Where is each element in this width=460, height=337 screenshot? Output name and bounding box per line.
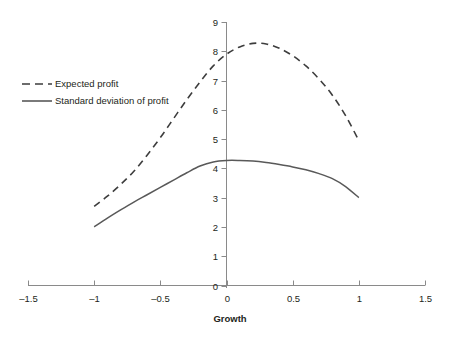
- y-axis-tick-labels: 0123456789: [213, 17, 218, 292]
- x-tick-label: 0.5: [287, 293, 300, 304]
- chart-container: –1.5–1–0.500.511.5 0123456789 Expected p…: [0, 0, 460, 337]
- y-tick-label: 8: [213, 46, 218, 57]
- x-tick-label: –1.5: [19, 293, 38, 304]
- legend-label-standard-deviation-of-profit: Standard deviation of profit: [55, 95, 169, 106]
- y-tick-label: 6: [213, 105, 218, 116]
- legend-item-standard-deviation-of-profit: Standard deviation of profit: [22, 93, 212, 108]
- chart-legend: Expected profit Standard deviation of pr…: [22, 76, 212, 110]
- chart-plot-area: –1.5–1–0.500.511.5 0123456789: [0, 0, 460, 337]
- legend-swatch-dashed-icon: [22, 79, 52, 89]
- x-axis-tick-labels: –1.5–1–0.500.511.5: [19, 293, 432, 304]
- y-tick-label: 2: [213, 222, 218, 233]
- y-tick-label: 5: [213, 134, 218, 145]
- y-tick-label: 0: [213, 281, 218, 292]
- legend-label-expected-profit: Expected profit: [55, 78, 118, 89]
- x-tick-label: 0: [225, 293, 230, 304]
- y-tick-label: 4: [213, 163, 218, 174]
- x-tick-label: 1.5: [419, 293, 432, 304]
- y-axis-ticks: [222, 23, 227, 287]
- legend-swatch-solid-icon: [22, 96, 52, 106]
- y-tick-label: 9: [213, 17, 218, 28]
- x-axis-ticks: [29, 281, 426, 286]
- x-tick-label: –1: [89, 293, 100, 304]
- y-tick-label: 1: [213, 251, 218, 262]
- y-tick-label: 3: [213, 193, 218, 204]
- legend-item-expected-profit: Expected profit: [22, 76, 212, 91]
- y-tick-label: 7: [213, 76, 218, 87]
- x-axis-title: Growth: [0, 313, 460, 324]
- x-tick-label: –0.5: [151, 293, 170, 304]
- x-tick-label: 1: [357, 293, 362, 304]
